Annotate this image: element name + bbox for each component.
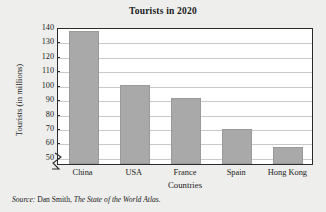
x-tick-hong-kong: Hong Kong — [247, 168, 326, 177]
x-axis-label: Countries — [57, 180, 313, 190]
plot-area — [57, 28, 313, 165]
y-tick-80: 80 — [28, 111, 54, 119]
y-tick-140: 140 — [28, 24, 54, 32]
y-tick-120: 120 — [28, 53, 54, 61]
y-tick-70: 70 — [28, 125, 54, 133]
y-tickmark — [57, 86, 60, 87]
y-tickmark — [57, 129, 60, 130]
source-note: Source: Dan Smith, The State of the Worl… — [12, 195, 161, 204]
source-title: The State of the World Atlas. — [74, 195, 161, 204]
chart-title: Tourists in 2020 — [0, 6, 326, 16]
bar-usa — [120, 85, 150, 164]
y-tick-130: 130 — [28, 38, 54, 46]
y-axis-label: Tourists (in millions) — [14, 30, 24, 170]
y-axis-tick-labels: 5060708090100110120130140 — [24, 28, 54, 165]
source-prefix: Source: — [12, 195, 35, 204]
y-tickmark — [57, 100, 60, 101]
source-author: Dan Smith, — [35, 195, 73, 204]
y-tickmark — [57, 57, 60, 58]
bar-france — [171, 98, 201, 164]
y-tickmark — [57, 143, 60, 144]
chart-figure: Tourists in 2020 Tourists (in millions) … — [0, 0, 326, 212]
y-tick-100: 100 — [28, 82, 54, 90]
y-tick-90: 90 — [28, 96, 54, 104]
y-tickmark — [57, 71, 60, 72]
y-tickmark — [57, 115, 60, 116]
y-tick-110: 110 — [28, 67, 54, 75]
bar-spain — [222, 129, 252, 164]
bar-hong-kong — [273, 147, 303, 164]
y-tickmark — [57, 158, 60, 159]
y-tickmark — [57, 28, 60, 29]
bar-china — [69, 31, 99, 164]
y-tick-60: 60 — [28, 139, 54, 147]
y-tickmark — [57, 42, 60, 43]
